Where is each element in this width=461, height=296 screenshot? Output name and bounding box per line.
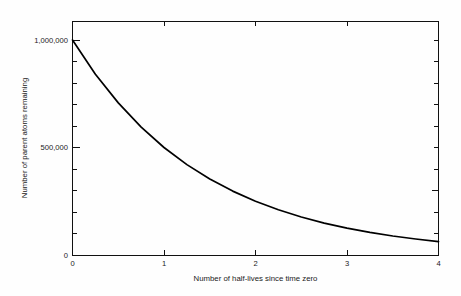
y-tick-label-1000000: 1,000,000 [34,36,68,45]
y-tick-label-500000: 500,000 [41,143,68,152]
x-tick-label-3: 3 [345,259,349,268]
x-tick-label-4: 4 [436,259,440,268]
x-axis-ticks [73,250,439,255]
x-tick-label-2: 2 [253,259,257,268]
x-axis-title: Number of half-lives since time zero [194,274,319,283]
y-axis-major-ticks [73,40,80,255]
x-tick-label-0: 0 [70,259,74,268]
plot-frame [73,22,439,256]
y-axis-title: Number of parent atoms remaining [20,78,29,198]
decay-curve [73,40,439,242]
chart-canvas: 1,000,000 500,000 0 0 1 2 3 4 Number of … [0,0,461,296]
y-tick-label-0: 0 [64,251,68,260]
top-axis-ticks [164,22,347,27]
radioactive-decay-chart: 1,000,000 500,000 0 0 1 2 3 4 Number of … [0,0,461,296]
right-axis-ticks [432,40,439,234]
x-tick-label-1: 1 [162,259,166,268]
